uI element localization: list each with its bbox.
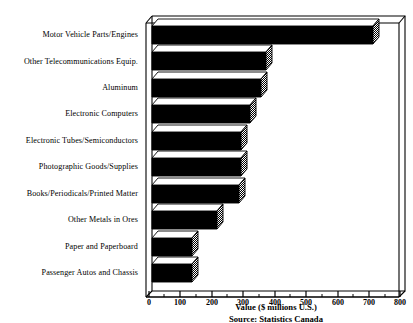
- x-axis-title: Value ($ millions U.S.): [148, 302, 404, 312]
- source-note: Source: Statistics Canada: [148, 314, 404, 323]
- bar-chart: Motor Vehicle Parts/Engines Other Teleco…: [0, 0, 413, 323]
- x-axis-tick-labels: 0 100 200 300 400 500 600 700 800: [0, 0, 413, 323]
